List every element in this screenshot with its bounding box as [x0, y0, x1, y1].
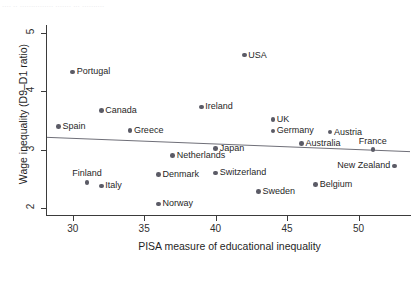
x-tick-mark [216, 216, 217, 221]
data-point[interactable] [242, 53, 247, 58]
data-point[interactable] [199, 105, 204, 110]
data-point[interactable] [156, 172, 161, 177]
data-point[interactable] [271, 117, 276, 122]
cropped-caption-text: .... .. ............... ....... ... ....… [0, 0, 418, 10]
data-point-label: Australia [305, 139, 340, 148]
data-point-label: Portugal [77, 67, 111, 76]
y-tick-mark [41, 208, 46, 209]
x-tick-label: 50 [347, 223, 371, 234]
data-point-label: Switzerland [220, 168, 267, 177]
scatter-plot-figure: .... .. ............... ....... ... ....… [0, 0, 418, 302]
data-point-label: USA [248, 51, 267, 60]
data-point-label: Ireland [205, 102, 233, 111]
x-tick-mark [73, 216, 74, 221]
data-point-label: UK [277, 115, 290, 124]
x-axis-line [46, 215, 411, 216]
data-point-label: Netherlands [177, 151, 226, 160]
x-tick-mark [144, 216, 145, 221]
data-point-label: Austria [334, 128, 362, 137]
data-point[interactable] [392, 164, 397, 169]
data-point[interactable] [213, 146, 218, 151]
data-point[interactable] [85, 180, 90, 185]
data-point[interactable] [156, 202, 161, 207]
y-tick-mark [41, 150, 46, 151]
x-tick-mark [287, 216, 288, 221]
data-point[interactable] [99, 108, 104, 113]
x-tick-mark [359, 216, 360, 221]
data-point[interactable] [299, 141, 304, 146]
x-tick-label: 35 [132, 223, 156, 234]
data-point[interactable] [56, 124, 61, 129]
data-point[interactable] [99, 184, 104, 189]
data-point-label: New Zealand [337, 161, 390, 170]
data-point[interactable] [170, 153, 175, 158]
x-tick-label: 40 [204, 223, 228, 234]
data-point[interactable] [328, 130, 333, 135]
data-point[interactable] [70, 70, 75, 75]
y-axis-title: Wage inequality (D9–D1 ratio) [17, 24, 29, 204]
data-point-label: Spain [62, 122, 85, 131]
y-tick-mark [41, 91, 46, 92]
data-point[interactable] [371, 147, 376, 152]
x-axis-title: PISA measure of educational inequality [47, 240, 412, 252]
data-point-label: Germany [277, 126, 314, 135]
data-point[interactable] [256, 189, 261, 194]
data-point-label: Italy [105, 181, 122, 190]
data-point[interactable] [313, 182, 318, 187]
data-point[interactable] [271, 129, 276, 134]
data-point[interactable] [128, 128, 133, 133]
data-point-label: Belgium [320, 180, 353, 189]
data-point-label: Japan [220, 144, 245, 153]
data-point-label: Greece [134, 126, 164, 135]
plot-area: SpainPortugalFinlandItalyCanadaGreeceDen… [47, 27, 410, 215]
data-point-label: Denmark [162, 170, 199, 179]
data-point-label: Sweden [263, 187, 296, 196]
data-point-label: Finland [72, 169, 102, 178]
data-point-label: France [359, 137, 387, 146]
data-point[interactable] [213, 171, 218, 176]
x-tick-label: 30 [61, 223, 85, 234]
y-tick-mark [41, 33, 46, 34]
data-point-label: Canada [105, 106, 137, 115]
data-point-label: Norway [162, 199, 193, 208]
x-tick-label: 45 [275, 223, 299, 234]
